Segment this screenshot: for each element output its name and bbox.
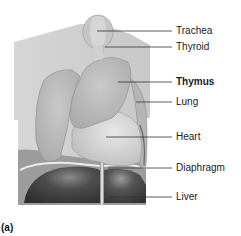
- panel-letter: (a): [1, 222, 13, 233]
- thymus-anatomy-figure: Trachea Thyroid Thymus Lung Heart Diaphr…: [0, 0, 241, 236]
- label-diaphragm: Diaphragm: [176, 162, 225, 174]
- label-trachea: Trachea: [176, 25, 212, 37]
- label-liver: Liver: [176, 191, 198, 203]
- label-lung: Lung: [176, 96, 198, 108]
- label-thymus: Thymus: [176, 76, 214, 88]
- label-thyroid: Thyroid: [176, 41, 209, 53]
- label-heart: Heart: [176, 131, 200, 143]
